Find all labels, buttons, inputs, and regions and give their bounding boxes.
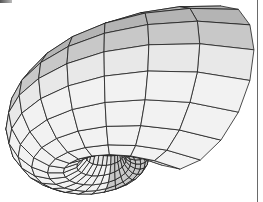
mesh-face xyxy=(104,71,147,102)
mesh-face xyxy=(105,100,145,127)
mesh-face xyxy=(145,71,197,102)
shell-mesh xyxy=(6,6,254,194)
mesh-face xyxy=(106,126,140,146)
mesh-face xyxy=(148,21,200,45)
mesh-face xyxy=(148,44,200,72)
frame-border-line xyxy=(257,0,258,202)
nautilus-shell-illustration xyxy=(0,0,263,202)
